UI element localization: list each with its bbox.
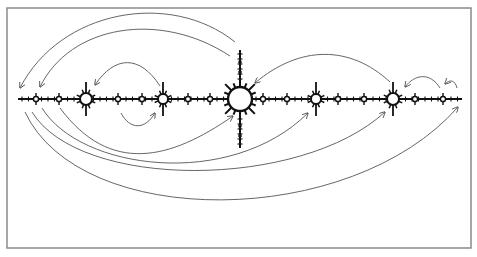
small-node (207, 93, 212, 105)
stem-bead (238, 124, 242, 128)
small-node-circle (440, 96, 445, 101)
small-node-circle (56, 96, 61, 101)
hub-spike (225, 84, 231, 90)
small-node (115, 93, 120, 105)
small-node (412, 93, 417, 105)
small-node (33, 93, 38, 105)
stem-bead (238, 70, 242, 74)
small-node-circle (115, 96, 120, 101)
small-node (139, 93, 144, 105)
small-node (260, 93, 265, 105)
arc-top-right-tiny (445, 81, 457, 88)
small-node-circle (139, 96, 144, 101)
arc-bottom-4 (25, 107, 458, 200)
arc-top-small-left (95, 63, 160, 86)
diagram-canvas (0, 0, 477, 257)
arc-bottom-3 (32, 112, 385, 171)
medium-node-circle (80, 93, 92, 105)
small-node (361, 93, 366, 105)
small-node (185, 93, 190, 105)
medium-node (308, 82, 325, 116)
arc-bottom-2 (42, 108, 308, 163)
arc-top-outer (20, 13, 235, 88)
medium-node (77, 82, 95, 116)
arc-top-right-small (405, 77, 440, 88)
medium-node-circle (387, 93, 399, 105)
stem-bead (238, 134, 242, 138)
arc-bottom-small-loop (121, 113, 155, 126)
small-node-circle (284, 96, 289, 101)
small-node (56, 93, 61, 105)
arc-top-inner (40, 29, 230, 87)
small-node-circle (361, 96, 366, 101)
small-node (335, 93, 340, 105)
small-node-circle (207, 96, 212, 101)
small-node-circle (260, 96, 265, 101)
medium-node (384, 82, 402, 116)
hub-node (228, 87, 252, 111)
stem-bead (238, 60, 242, 64)
medium-node (155, 82, 172, 116)
medium-node-circle (311, 94, 321, 104)
medium-node-circle (158, 94, 168, 104)
small-node (284, 93, 289, 105)
small-node-circle (412, 96, 417, 101)
small-node-circle (335, 96, 340, 101)
hub-spike (248, 84, 254, 90)
hub-spike (225, 107, 231, 113)
small-node-circle (33, 96, 38, 101)
network-diagram (0, 0, 477, 257)
arc-top-right-to-hub (255, 54, 390, 83)
hub-spike (248, 107, 254, 113)
small-node (440, 93, 445, 105)
small-node-circle (185, 96, 190, 101)
